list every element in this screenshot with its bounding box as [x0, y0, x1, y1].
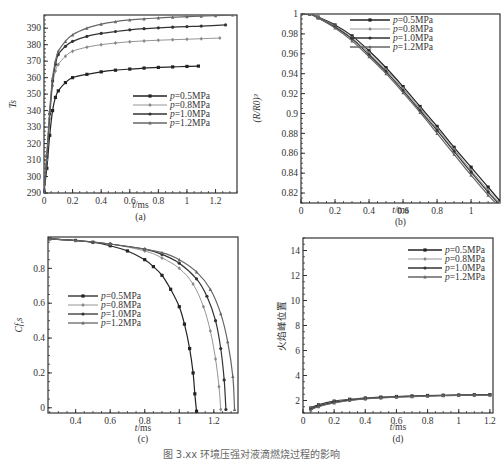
- data-point-marker: [71, 49, 74, 53]
- y-tick-label: 0.4: [33, 333, 45, 343]
- y-tick-label: 290: [27, 188, 42, 198]
- data-point-marker: [157, 26, 160, 29]
- data-point-marker: [54, 96, 57, 99]
- data-point-marker: [185, 25, 188, 28]
- x-tick-label: 0.2: [328, 416, 340, 426]
- legend: p=0.5MPap=0.8MPap=1.0MPap=1.2MPa: [408, 245, 486, 282]
- data-point-marker: [171, 26, 174, 29]
- data-point-marker: [498, 203, 501, 206]
- data-point-marker: [169, 288, 172, 291]
- data-point-marker: [202, 305, 205, 309]
- y-tick-label: 310: [27, 155, 42, 165]
- y-tick-label: 0.96: [281, 49, 298, 59]
- data-point-marker: [81, 294, 84, 297]
- series-p-0-5MPa: [42, 64, 200, 192]
- series-line: [311, 395, 490, 410]
- data-point-marker: [368, 27, 371, 31]
- legend-label: p=1.2MPa: [169, 118, 211, 128]
- y-tick-label: 0.82: [281, 188, 298, 198]
- data-point-marker: [423, 266, 426, 269]
- data-point-marker: [498, 205, 501, 209]
- legend-label: p=1.2MPa: [100, 318, 142, 328]
- x-tick-label: 0.4: [70, 416, 82, 426]
- y-tick-label: 6: [295, 346, 300, 356]
- panel-label: (d): [392, 434, 403, 445]
- y-tick-label: 10: [291, 296, 301, 306]
- data-point-marker: [143, 258, 146, 261]
- x-tick-label: 0.4: [95, 196, 107, 206]
- y-tick-label: 0: [40, 403, 45, 413]
- data-point-marker: [85, 73, 88, 76]
- data-point-marker: [185, 65, 188, 68]
- y-tick-label: 0.84: [281, 168, 298, 178]
- data-point-marker: [423, 248, 426, 251]
- data-point-marker: [85, 45, 88, 49]
- y-tick-label: 320: [27, 139, 42, 149]
- y-axis-label: 火焰峰位置: [276, 301, 287, 351]
- data-point-marker: [128, 67, 131, 70]
- data-point-marker: [114, 41, 117, 45]
- x-tick-label: 0.8: [152, 196, 164, 206]
- data-point-marker: [171, 65, 174, 68]
- legend: p=0.5MPap=0.8MPap=1.0MPap=1.2MPa: [68, 291, 142, 328]
- x-tick-label: 1.2: [208, 416, 220, 426]
- y-tick-label: 340: [27, 106, 42, 116]
- x-tick-label: 0: [42, 196, 47, 206]
- data-point-marker: [223, 378, 226, 381]
- legend: p=0.5MPap=0.8MPap=1.0MPap=1.2MPa: [350, 15, 434, 52]
- y-tick-label: 0.92: [281, 89, 298, 99]
- y-tick-label: 0.88: [281, 129, 298, 139]
- y-tick-label: 350: [27, 89, 42, 99]
- legend: p=0.5MPap=0.8MPap=1.0MPap=1.2MPa: [133, 91, 211, 128]
- data-point-marker: [233, 408, 236, 412]
- chart-b-svg: 00.20.40.60.810.820.840.860.880.90.920.9…: [250, 0, 503, 230]
- x-tick-label: 0.4: [359, 416, 371, 426]
- series-line: [44, 66, 198, 191]
- data-point-marker: [219, 408, 222, 412]
- legend-label: p=1.2MPa: [392, 42, 434, 52]
- data-point-marker: [157, 66, 160, 69]
- x-axis-label: t/ms: [390, 422, 407, 432]
- data-point-marker: [214, 357, 217, 361]
- y-tick-label: 390: [27, 23, 42, 33]
- y-tick-label: 0.8: [33, 264, 45, 274]
- chart-panel-b: 00.20.40.60.810.820.840.860.880.90.920.9…: [250, 0, 503, 230]
- data-point-marker: [128, 28, 131, 31]
- data-point-marker: [85, 35, 88, 38]
- data-point-marker: [114, 69, 117, 72]
- data-point-marker: [142, 27, 145, 30]
- y-tick-label: 370: [27, 56, 42, 66]
- data-point-marker: [178, 305, 181, 308]
- data-point-marker: [64, 81, 67, 84]
- data-point-marker: [157, 38, 160, 42]
- data-point-marker: [209, 329, 212, 333]
- data-point-marker: [51, 109, 54, 112]
- y-tick-label: 4: [295, 371, 300, 381]
- data-point-marker: [114, 30, 117, 33]
- chart-c-svg: 0.40.60.811.200.20.40.60.8t/ms(c)Cf,sp=0…: [0, 230, 250, 445]
- data-point-marker: [191, 371, 194, 374]
- x-tick-label: 0: [301, 416, 306, 426]
- y-tick-label: 0.98: [281, 29, 298, 39]
- y-tick-label: 0.9: [286, 109, 298, 119]
- data-point-marker: [100, 70, 103, 73]
- data-point-marker: [193, 392, 196, 395]
- x-axis-label: t/ms: [132, 200, 149, 210]
- data-point-marker: [217, 385, 220, 389]
- data-point-marker: [57, 89, 60, 92]
- x-tick-label: 0: [299, 206, 304, 216]
- y-tick-label: 330: [27, 122, 42, 132]
- data-point-marker: [185, 37, 188, 41]
- data-point-marker: [224, 23, 227, 26]
- y-axis-label: Cf,s: [14, 317, 24, 332]
- data-point-marker: [231, 375, 234, 379]
- data-point-marker: [171, 38, 174, 42]
- data-point-marker: [423, 257, 426, 261]
- data-point-marker: [64, 45, 67, 48]
- data-point-marker: [368, 36, 371, 39]
- data-point-marker: [128, 40, 131, 44]
- data-point-marker: [205, 295, 208, 298]
- chart-d-svg: 00.20.40.60.811.22468101214t/ms(d)火焰峰位置p…: [250, 230, 503, 445]
- panel-label: (c): [138, 434, 149, 445]
- chart-a-svg: 00.20.40.60.811.229030031032033034035036…: [0, 0, 250, 230]
